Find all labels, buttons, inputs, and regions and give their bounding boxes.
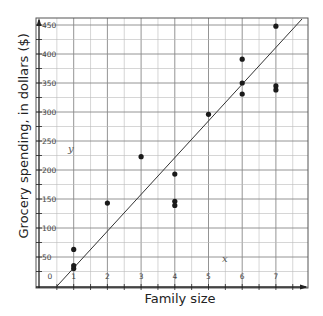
svg-text:400: 400 <box>42 50 57 59</box>
svg-text:250: 250 <box>42 137 57 146</box>
x-axis-letter: x <box>222 253 228 264</box>
line-of-best-fit <box>56 19 302 287</box>
svg-text:350: 350 <box>42 79 57 88</box>
data-point <box>240 91 245 96</box>
data-point <box>273 24 278 29</box>
svg-text:2: 2 <box>105 272 110 281</box>
svg-text:200: 200 <box>42 166 57 175</box>
svg-text:3: 3 <box>139 272 144 281</box>
data-point <box>105 200 110 205</box>
svg-text:7: 7 <box>274 272 279 281</box>
axes <box>36 18 308 290</box>
x-axis-label: Family size <box>130 291 230 306</box>
y-axis-letter: y <box>67 143 74 154</box>
data-point <box>172 203 177 208</box>
data-point <box>139 154 144 159</box>
grid-lines <box>36 18 308 288</box>
svg-text:6: 6 <box>240 272 245 281</box>
data-point <box>206 112 211 117</box>
svg-text:0: 0 <box>48 272 53 281</box>
data-point <box>71 266 76 271</box>
data-point <box>273 87 278 92</box>
svg-text:300: 300 <box>42 108 57 117</box>
scatter-plot: 0123456750100150200250300350400450 x y <box>0 0 323 316</box>
svg-text:150: 150 <box>42 195 57 204</box>
svg-text:4: 4 <box>172 272 177 281</box>
data-point <box>172 171 177 176</box>
svg-text:450: 450 <box>42 21 57 30</box>
data-point <box>240 80 245 85</box>
svg-text:1: 1 <box>71 272 76 281</box>
y-axis-label: Grocery spending, in dollars ($) <box>16 69 31 239</box>
svg-text:100: 100 <box>42 224 57 233</box>
svg-text:50: 50 <box>42 253 52 262</box>
plot-frame <box>36 18 308 288</box>
data-point <box>71 247 76 252</box>
svg-text:5: 5 <box>206 272 211 281</box>
data-point <box>240 57 245 62</box>
